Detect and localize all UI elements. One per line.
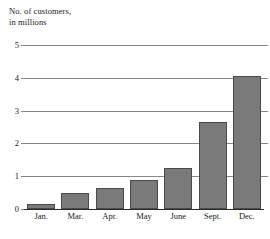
x-axis-tick-label: Dec. (239, 211, 255, 222)
bar-mar (61, 193, 89, 209)
y-tick-mark-right (264, 143, 268, 144)
x-axis-tick-label: Apr. (102, 211, 117, 222)
chart-title-line-1: No. of customers, (9, 6, 71, 17)
bar-may (130, 180, 158, 209)
y-tick-mark-right (264, 176, 268, 177)
y-tick-mark-right (264, 45, 268, 46)
y-axis-tick-label: 2 (15, 139, 19, 148)
x-axis-tick-label: Jan. (34, 211, 47, 222)
bar-dec (233, 76, 261, 209)
y-tick-mark-right (264, 111, 268, 112)
x-axis-baseline (24, 209, 264, 210)
x-axis-tick-label: Sept. (204, 211, 221, 222)
y-axis-tick-label: 1 (15, 172, 19, 181)
bar-chart-figure: No. of customers, in millions 012345 Jan… (0, 0, 270, 239)
plot-area: 012345 (24, 45, 264, 209)
bar-sept (199, 122, 227, 209)
bar-apr (96, 188, 124, 209)
x-axis-labels: Jan.Mar.Apr.MayJuneSept.Dec. (24, 211, 264, 227)
chart-title-line-2: in millions (9, 17, 71, 28)
x-axis-tick-label: Mar. (68, 211, 84, 222)
bar-june (164, 168, 192, 209)
chart-title: No. of customers, in millions (9, 6, 71, 27)
bar-jan (27, 204, 55, 209)
x-axis-tick-label: May (136, 211, 152, 222)
x-axis-tick-label: June (170, 211, 186, 222)
y-axis-tick-label: 4 (15, 74, 19, 83)
y-tick-mark-right (264, 78, 268, 79)
y-axis-tick-label: 5 (15, 41, 19, 50)
y-axis-tick-label: 3 (15, 106, 19, 115)
y-tick-mark (21, 209, 24, 210)
y-axis-tick-label: 0 (15, 205, 19, 214)
bars-layer (24, 45, 264, 209)
